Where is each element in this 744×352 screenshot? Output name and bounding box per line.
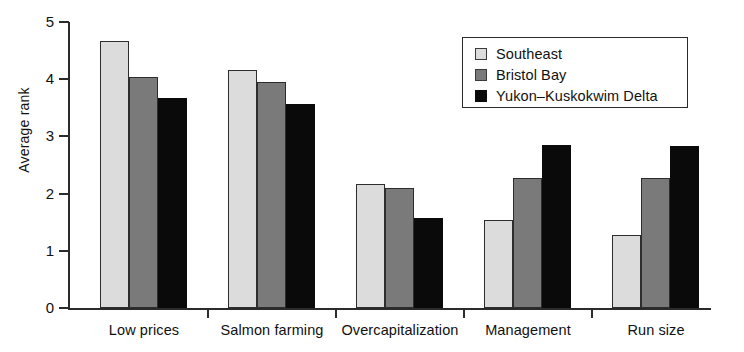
x-axis-separator-tick [207,310,209,318]
bar [612,235,641,308]
bar [414,218,443,308]
legend-item: Bristol Bay [475,65,687,85]
chart-legend: SoutheastBristol BayYukon–Kuskokwim Delt… [462,37,688,108]
legend-swatch-icon [475,90,487,102]
bar [484,220,513,308]
bar [228,70,257,308]
x-axis-separator-tick [463,310,465,318]
bar-chart: Average rank 012345 Low pricesSalmon far… [0,0,744,352]
legend-item: Southeast [475,44,687,64]
x-axis-group-label: Run size [566,322,744,338]
bar [158,98,187,308]
legend-item: Yukon–Kuskokwim Delta [475,86,687,106]
bar [542,145,571,308]
bar [257,82,286,308]
legend-swatch-icon [475,69,487,81]
bar [385,188,414,308]
legend-item-label: Bristol Bay [496,67,566,83]
legend-item-label: Southeast [496,46,562,62]
bar [129,77,158,308]
legend-item-label: Yukon–Kuskokwim Delta [496,88,658,104]
bar [513,178,542,308]
bar [641,178,670,308]
x-axis-separator-tick [591,310,593,318]
legend-swatch-icon [475,48,487,60]
bar [286,104,315,308]
x-axis-separator-tick [335,310,337,318]
bar [356,184,385,308]
x-axis-line [68,308,711,310]
bar [670,146,699,308]
bar [100,41,129,308]
